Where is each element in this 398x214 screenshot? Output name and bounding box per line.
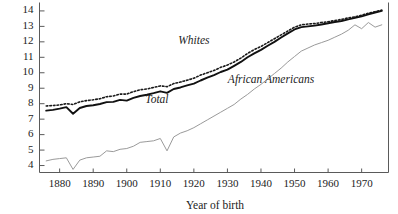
y-tick-label: 7 xyxy=(28,112,34,124)
x-tick-label: 1910 xyxy=(149,177,172,189)
x-axis-ticks: 1880189019001910192019301940195019601970 xyxy=(49,169,374,189)
series-annotation-african-americans: African Americans xyxy=(227,73,315,86)
x-tick-label: 1900 xyxy=(116,177,139,189)
series-annotation-whites: Whites xyxy=(178,34,210,46)
y-tick-label: 14 xyxy=(23,3,35,15)
chart-container: 4567891011121314 18801890190019101920193… xyxy=(0,0,398,214)
y-tick-label: 5 xyxy=(28,143,34,155)
x-tick-label: 1890 xyxy=(82,177,105,189)
series-line-african-americans xyxy=(46,23,382,170)
y-tick-label: 4 xyxy=(28,158,34,170)
y-axis-ticks: 4567891011121314 xyxy=(23,3,45,170)
education-by-birth-year-line-chart: 4567891011121314 18801890190019101920193… xyxy=(0,0,398,214)
y-tick-label: 8 xyxy=(28,96,34,108)
series-inline-labels: WhitesTotalAfrican Americans xyxy=(145,34,314,105)
y-tick-label: 10 xyxy=(23,65,35,77)
x-tick-label: 1920 xyxy=(183,177,206,189)
x-tick-label: 1930 xyxy=(216,177,239,189)
x-tick-label: 1940 xyxy=(250,177,273,189)
x-axis-title: Year of birth xyxy=(186,199,244,211)
chart-series-lines xyxy=(46,10,382,169)
x-tick-label: 1950 xyxy=(284,177,307,189)
y-tick-label: 6 xyxy=(28,127,34,139)
y-tick-label: 9 xyxy=(28,81,34,93)
x-tick-label: 1960 xyxy=(317,177,340,189)
series-line-whites xyxy=(46,10,382,106)
y-tick-label: 13 xyxy=(23,19,35,31)
series-line-total xyxy=(46,11,382,114)
chart-axes xyxy=(40,3,389,173)
y-tick-label: 12 xyxy=(23,34,34,46)
series-annotation-total: Total xyxy=(145,93,168,105)
y-tick-label: 11 xyxy=(23,50,34,62)
x-tick-label: 1880 xyxy=(49,177,72,189)
x-tick-label: 1970 xyxy=(351,177,374,189)
